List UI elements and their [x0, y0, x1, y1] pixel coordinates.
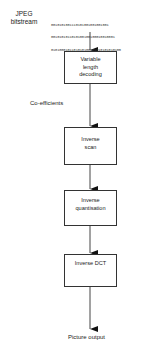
input-label: JPEG bitstream — [5, 10, 43, 26]
edge-label-coefficients: Co-efficients — [30, 100, 63, 106]
node-label: quantisation — [75, 205, 105, 213]
node-label: Inverse DCT — [75, 260, 106, 268]
input-label-line-1: JPEG — [5, 10, 43, 18]
node-label: Inverse — [75, 197, 105, 205]
node-inverse-dct: Inverse DCT — [64, 254, 117, 287]
node-label: length — [79, 64, 102, 72]
node-label: scan — [81, 144, 99, 152]
bitstream-line: 0010101001110101001001001001 — [51, 23, 121, 27]
node-label: Inverse — [81, 136, 99, 144]
output-label: Picture output — [68, 334, 105, 340]
node-inverse-scan: Inverse scan — [64, 127, 117, 165]
node-label: decoding — [79, 71, 102, 79]
node-label: Variable — [79, 56, 102, 64]
bitstream-line: 0010101011010100100100010010001 — [51, 35, 121, 39]
node-variable-length-decoding: Variable length decoding — [64, 51, 117, 84]
node-inverse-quantisation: Inverse quantisation — [64, 190, 117, 226]
input-label-line-2: bitstream — [5, 18, 43, 26]
